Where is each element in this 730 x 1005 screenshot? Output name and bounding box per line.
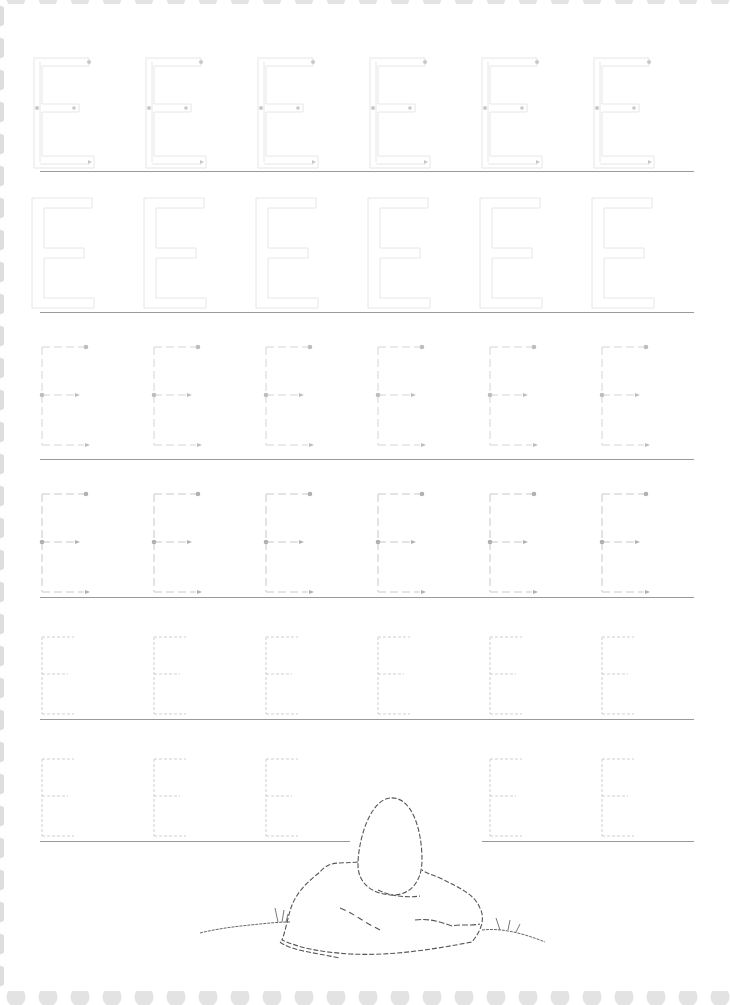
trace-letter-e [488,636,528,718]
trace-letter-e [40,636,80,718]
trace-letter-e [600,636,640,718]
trace-letter-e [600,345,660,449]
egg-on-rock-illustration [190,790,570,960]
trace-letter-e [594,58,664,168]
trace-letter-e [264,345,324,449]
trace-letter-e [370,58,440,168]
trace-letter-e [144,198,216,310]
trace-letter-e [152,492,212,596]
scalloped-border-left [0,0,4,995]
trace-row-4 [40,460,694,598]
trace-letter-e [152,758,192,840]
trace-row-5 [40,598,694,720]
trace-letter-e [600,492,660,596]
trace-letter-e [264,636,304,718]
scalloped-border-bottom [0,991,730,1005]
trace-letter-e [376,345,436,449]
trace-row-3 [40,313,694,460]
trace-letter-e [152,636,192,718]
trace-letter-e [258,58,328,168]
trace-letter-e [40,492,100,596]
trace-letter-e [488,345,548,449]
trace-letter-e [480,198,552,310]
trace-letter-e [376,492,436,596]
trace-letter-e [376,636,416,718]
trace-letter-e [34,58,104,168]
trace-letter-e [482,58,552,168]
trace-letter-e [488,492,548,596]
trace-letter-e [40,758,80,840]
trace-letter-e [256,198,328,310]
trace-letter-e [600,758,640,840]
trace-letter-e [32,198,104,310]
trace-letter-e [152,345,212,449]
trace-letter-e [368,198,440,310]
trace-letter-e [592,198,664,310]
trace-letter-e [146,58,216,168]
trace-letter-e [40,345,100,449]
trace-letter-e [264,492,324,596]
